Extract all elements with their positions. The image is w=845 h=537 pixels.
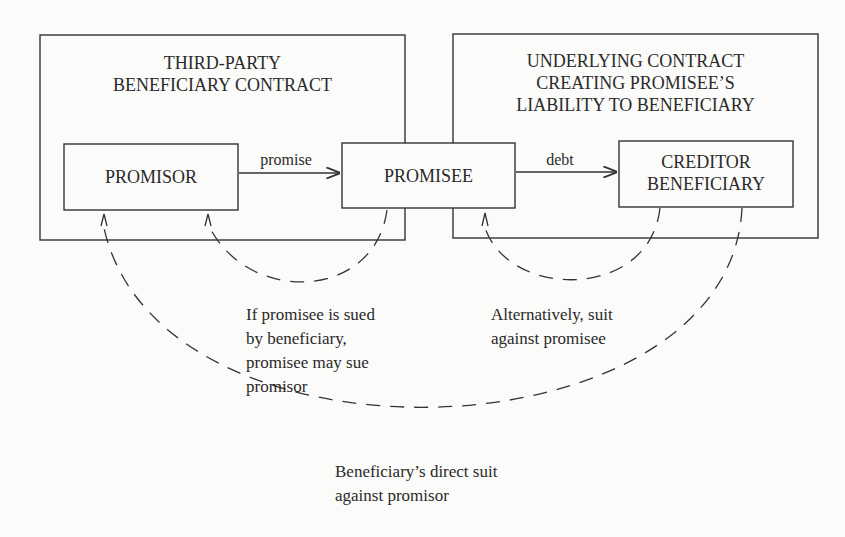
dashed-creditor-to-promisee xyxy=(485,208,660,280)
arrowhead-icon xyxy=(482,213,488,226)
creditor-beneficiary-label: CREDITORBENEFICIARY xyxy=(619,151,793,195)
direct-suit-annotation: Beneficiary’s direct suitagainst promiso… xyxy=(335,460,497,508)
alternative-suit-annotation: Alternatively, suitagainst promisee xyxy=(491,303,613,351)
promisee-sues-annotation: If promisee is suedby beneficiary,promis… xyxy=(246,303,375,399)
underlying-contract-title: UNDERLYING CONTRACTCREATING PROMISEE’SLI… xyxy=(453,50,818,116)
promise-arrow-label: promise xyxy=(246,149,326,171)
arrowhead-icon xyxy=(101,214,107,226)
third-party-contract-title: THIRD-PARTYBENEFICIARY CONTRACT xyxy=(40,52,405,96)
promisee-label: PROMISEE xyxy=(342,165,515,187)
debt-arrow-label: debt xyxy=(520,149,600,171)
promisor-label: PROMISOR xyxy=(64,166,238,188)
arrowhead-icon xyxy=(205,214,211,226)
dashed-promisee-to-promisor xyxy=(210,210,387,282)
